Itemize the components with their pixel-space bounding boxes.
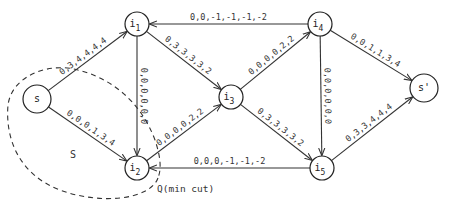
edge-i1-i3: 0,3,3,3,3,2 <box>146 31 220 89</box>
edge-line <box>48 32 126 91</box>
edge-label: 0,0,0,0,0,0 <box>323 68 334 124</box>
node-i5: i5 <box>310 156 334 180</box>
edge-line <box>49 107 127 161</box>
edge-i1-i2: 0,0,0,0,0,0 <box>137 36 149 155</box>
edge-label: 0,0,0,1,3,4 <box>65 108 117 148</box>
edge-i4-t: 0,0,1,1,3,4 <box>330 30 411 80</box>
nodes-layer: si1i2i3i4i5s' <box>23 12 438 180</box>
edge-label: 0,0,0,0,0,0 <box>139 68 149 124</box>
edge-i4-i5: 0,0,0,0,0,0 <box>320 36 333 155</box>
edge-line <box>147 105 221 161</box>
edge-i4-i1: 0,0,-1,-1,-1,-2 <box>150 12 308 24</box>
min-cut-label: Q(min cut) <box>157 183 214 194</box>
edge-label: 0,0,0,0,2,2 <box>154 106 205 148</box>
edge-i3-i4: 0,0,0,0,2,2 <box>240 32 310 89</box>
edge-i2-i3: 0,0,0,0,2,2 <box>147 105 221 161</box>
node-label: s' <box>418 82 430 93</box>
region-label-s: S <box>70 149 76 160</box>
edge-line <box>320 36 322 155</box>
edge-label: 0,0,0,0,2,2 <box>246 33 296 76</box>
edge-line <box>240 32 310 89</box>
node-i4: i4 <box>308 12 332 36</box>
edge-line <box>240 104 311 160</box>
edge-line <box>146 31 220 89</box>
node-i2: i2 <box>125 156 149 180</box>
node-i3: i3 <box>219 85 243 109</box>
edge-s-i2: 0,0,0,1,3,4 <box>49 107 127 161</box>
edge-label: 0,0,-1,-1,-1,-2 <box>190 12 267 22</box>
diagram-canvas: 0,3,4,4,4,40,0,0,1,3,40,0,0,0,0,00,3,3,3… <box>0 0 456 204</box>
edge-line <box>330 30 411 80</box>
edge-label: 0,0,1,1,3,4 <box>349 31 402 69</box>
node-label: s <box>34 93 40 104</box>
node-s: s <box>23 85 51 113</box>
edge-s-i1: 0,3,4,4,4,4 <box>48 32 126 91</box>
edge-i5-i2: 0,0,0,-1,-1,-2 <box>150 156 310 168</box>
flow-network-diagram: 0,3,4,4,4,40,0,0,1,3,40,0,0,0,0,00,3,3,3… <box>0 0 456 204</box>
edge-label: 0,3,3,3,3,2 <box>163 34 214 76</box>
edge-label: 0,3,3,4,4,4 <box>343 101 393 144</box>
edge-label: 0,3,3,3,3,2 <box>256 106 307 149</box>
node-t: s' <box>410 74 438 102</box>
edge-label: 0,3,4,4,4,4 <box>57 35 108 77</box>
edge-label: 0,0,0,-1,-1,-2 <box>194 156 266 166</box>
node-i1: i1 <box>125 12 149 36</box>
edge-i3-i5: 0,3,3,3,3,2 <box>240 104 311 160</box>
edge-i5-t: 0,3,3,4,4,4 <box>331 97 412 160</box>
edge-line <box>331 97 412 160</box>
